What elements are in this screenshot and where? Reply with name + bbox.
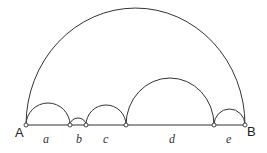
point-2 [84, 123, 88, 127]
semicircle-diagram: A B a b c d e [0, 0, 267, 153]
point-4 [212, 123, 216, 127]
label-B: B [247, 124, 256, 139]
point-3 [124, 123, 128, 127]
arc-a [26, 103, 70, 125]
label-c: c [103, 132, 109, 146]
large-arc-AB [26, 8, 245, 125]
arc-d [126, 78, 214, 125]
point-1 [68, 123, 72, 127]
label-d: d [169, 132, 176, 146]
label-A: A [15, 125, 24, 140]
label-b: b [76, 132, 82, 146]
arc-b [70, 118, 86, 125]
point-A [24, 123, 28, 127]
arc-c [86, 105, 126, 125]
label-a: a [43, 132, 49, 146]
arc-e [214, 109, 245, 125]
label-e: e [226, 132, 232, 146]
